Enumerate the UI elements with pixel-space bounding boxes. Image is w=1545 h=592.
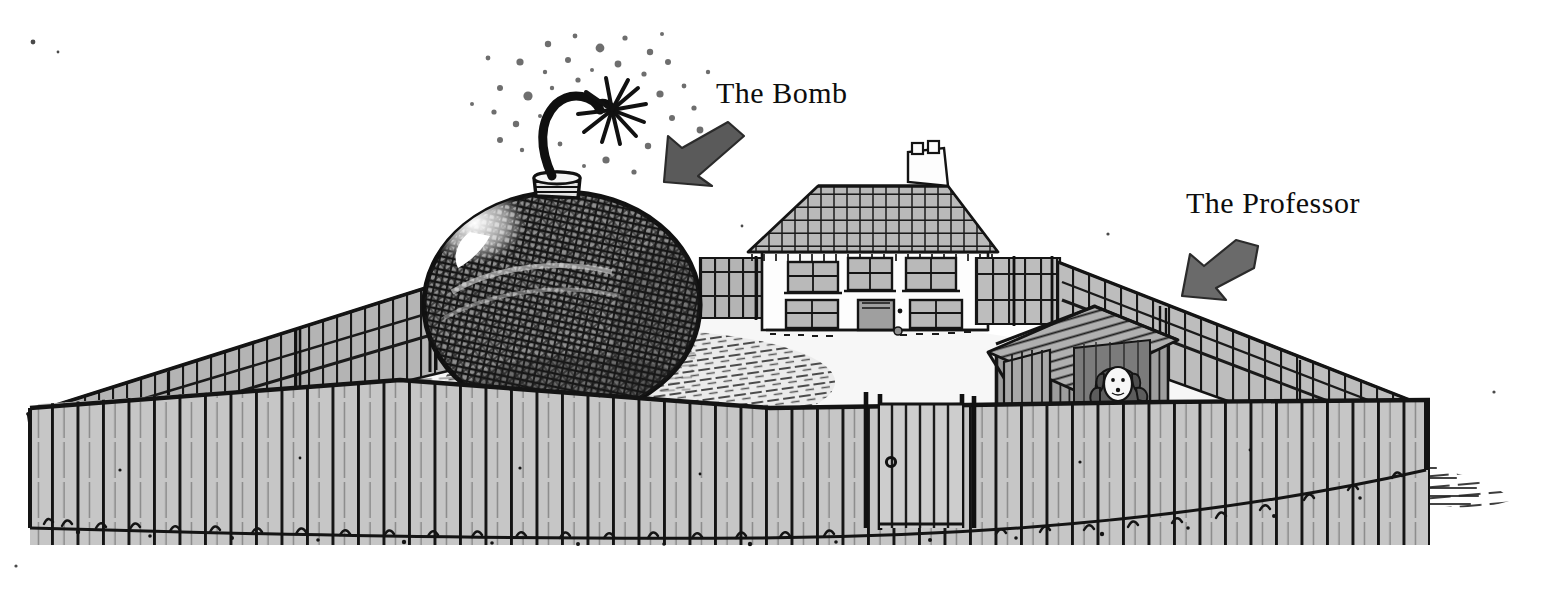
fence-gate (866, 392, 974, 530)
spark-burst (578, 78, 646, 144)
cottage (748, 141, 998, 336)
fence-back-middle (700, 256, 766, 320)
cottage-door (858, 300, 894, 330)
label-the-bomb: The Bomb (716, 76, 848, 110)
arrow-to-professor (1182, 240, 1258, 300)
bomb-fuse (543, 96, 612, 176)
illustration-canvas: The Bomb The Professor (0, 0, 1545, 592)
label-the-professor: The Professor (1186, 186, 1360, 220)
chimney-pot (928, 141, 939, 153)
chimney-pot (912, 143, 923, 154)
arrow-to-bomb (664, 122, 744, 186)
